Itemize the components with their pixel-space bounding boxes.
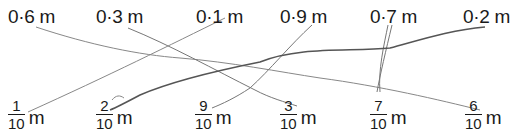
match-line-0-7 [377,25,392,92]
decimal-label-0-9: 0·9 m [280,6,327,28]
unit: m [391,107,407,129]
denominator: 10 [370,116,387,131]
fraction-label-3-10: 310 m [280,98,317,131]
numerator: 7 [372,98,384,113]
numerator: 1 [10,98,22,113]
fraction-label-7-10: 710 m [370,98,407,131]
decimal-label-0-7: 0·7 m [370,6,417,28]
denominator: 10 [8,116,25,131]
unit: m [117,107,133,129]
unit: m [29,107,45,129]
unit: m [301,107,317,129]
fraction-label-2-10: 210 m [96,98,133,131]
decimal-label-0-6: 0·6 m [8,6,55,28]
denominator: 10 [465,116,482,131]
denominator: 10 [195,116,212,131]
numerator: 2 [98,98,110,113]
unit: m [216,107,232,129]
denominator: 10 [96,116,113,131]
fraction-label-6-10: 610 m [465,98,502,131]
numerator: 6 [467,98,479,113]
fraction-label-9-10: 910 m [195,98,232,131]
decimal-label-0-1: 0·1 m [196,6,243,28]
unit: m [486,107,502,129]
match-line-0-9 [212,25,312,108]
matching-lines [0,0,515,135]
numerator: 3 [282,98,294,113]
denominator: 10 [280,116,297,131]
decimal-label-0-3: 0·3 m [96,6,143,28]
decimal-label-0-2: 0·2 m [463,6,510,28]
fraction-label-1-10: 110 m [8,98,45,131]
numerator: 9 [197,98,209,113]
